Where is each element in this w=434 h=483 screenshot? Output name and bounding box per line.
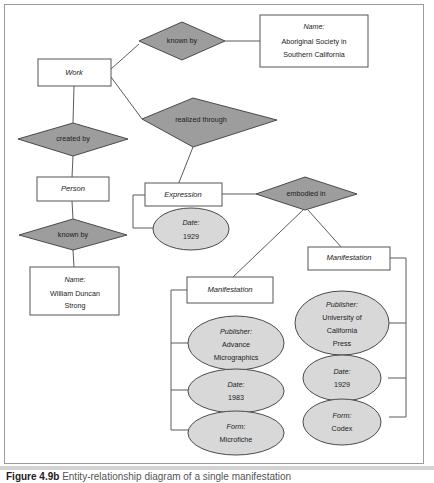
relationship-label: known by	[58, 230, 89, 239]
attribute-value-line-2: Southern California	[283, 50, 345, 59]
entity-label: Manifestation	[326, 253, 371, 262]
attribute-value-line-1: William Duncan	[50, 289, 100, 298]
attribute-value-line-3: Press	[333, 339, 352, 348]
attribute-bus-right	[388, 258, 406, 417]
figure-page: known by created by realized through kno…	[0, 0, 434, 483]
attribute-ellipse	[303, 399, 381, 445]
attribute-ellipse	[303, 355, 381, 401]
relationship-label: embodied in	[286, 189, 325, 198]
attribute-value-line-1: University of	[322, 313, 362, 322]
edge-person-knownby	[72, 201, 73, 219]
attribute-key: Date:	[182, 218, 199, 227]
attribute-name-person[interactable]: Name: William Duncan Strong	[30, 267, 119, 315]
bus-right-spine	[390, 258, 406, 417]
attribute-value-line-1: 1929	[183, 232, 199, 241]
diagram-frame: known by created by realized through kno…	[4, 4, 424, 464]
entity-label: Person	[61, 184, 85, 193]
entity-label: Work	[65, 68, 84, 77]
caption-figure-label: Figure	[6, 471, 37, 482]
attribute-key: Date:	[333, 367, 350, 376]
attribute-value-line-1: Microfiche	[220, 435, 253, 444]
relationship-realized-through[interactable]: realized through	[142, 98, 277, 147]
attribute-name-society[interactable]: Name: Aboriginal Society in Southern Cal…	[260, 15, 368, 67]
entity-label: Manifestation	[207, 285, 252, 294]
caption-text: Entity-relationship diagram of a single …	[62, 471, 291, 482]
attribute-key: Publisher:	[220, 327, 252, 336]
attribute-key: Name:	[64, 275, 85, 284]
attribute-key: Date:	[227, 380, 244, 389]
attribute-value-line-2: Micrographics	[214, 353, 259, 362]
entity-expression[interactable]: Expression	[145, 183, 222, 206]
relationship-created-by[interactable]: created by	[18, 123, 128, 156]
entity-manifestation-right[interactable]: Manifestation	[308, 247, 390, 270]
er-diagram: known by created by realized through kno…	[5, 5, 423, 463]
attribute-right-form[interactable]: Form: Codex	[303, 399, 381, 445]
entity-label: Expression	[164, 190, 202, 199]
attribute-value-line-1: Advance	[222, 340, 250, 349]
relationship-embodied-in[interactable]: embodied in	[256, 177, 357, 210]
attribute-left-publisher[interactable]: Publisher: Advance Micrographics	[188, 316, 284, 370]
attribute-left-form[interactable]: Form: Microfiche	[188, 411, 284, 455]
attribute-ellipse	[188, 411, 284, 455]
edge-work-realized	[111, 77, 142, 119]
edge-knownby-name-person	[73, 250, 74, 267]
attribute-value-line-1: Aboriginal Society in	[281, 37, 346, 46]
attribute-key: Form:	[227, 422, 246, 431]
edge-realized-expression	[178, 147, 193, 185]
relationship-known-by-person[interactable]: known by	[19, 219, 127, 250]
caption-figure-number: 4.9b	[39, 471, 59, 482]
attribute-value-line-1: 1983	[228, 393, 244, 402]
attribute-key: Name:	[303, 22, 324, 31]
attribute-value-line-1: 1929	[334, 380, 350, 389]
entity-work[interactable]: Work	[38, 59, 111, 86]
attribute-key: Publisher:	[326, 300, 358, 309]
entity-person[interactable]: Person	[37, 177, 109, 201]
attribute-right-date[interactable]: Date: 1929	[303, 355, 381, 401]
bus-left-spine	[171, 290, 187, 430]
entity-manifestation-left[interactable]: Manifestation	[187, 277, 273, 303]
attribute-right-publisher[interactable]: Publisher: University of California Pres…	[295, 291, 389, 355]
figure-caption: Figure 4.9b Entity-relationship diagram …	[6, 470, 430, 483]
relationship-label: realized through	[175, 115, 227, 124]
attribute-ellipse	[188, 369, 284, 413]
edge-work-knownby	[111, 44, 139, 69]
attribute-expression-date[interactable]: Date: 1929	[153, 208, 229, 250]
attribute-bus-left	[171, 290, 189, 430]
edge-createdby-person	[72, 156, 73, 177]
attribute-ellipse	[153, 208, 229, 250]
edge-embodied-manifestation-right	[308, 210, 342, 248]
attribute-left-date[interactable]: Date: 1983	[188, 369, 284, 413]
attribute-value-line-1: Codex	[332, 424, 353, 433]
edge-embodied-manifestation-left	[233, 210, 303, 277]
relationship-label: created by	[56, 134, 90, 143]
attribute-value-line-2: California	[327, 326, 357, 335]
relationship-label: known by	[167, 36, 198, 45]
relationship-known-by-work[interactable]: known by	[139, 22, 225, 60]
attribute-key: Form:	[333, 411, 352, 420]
edge-work-createdby	[73, 86, 74, 123]
attribute-value-line-2: Strong	[64, 301, 85, 310]
